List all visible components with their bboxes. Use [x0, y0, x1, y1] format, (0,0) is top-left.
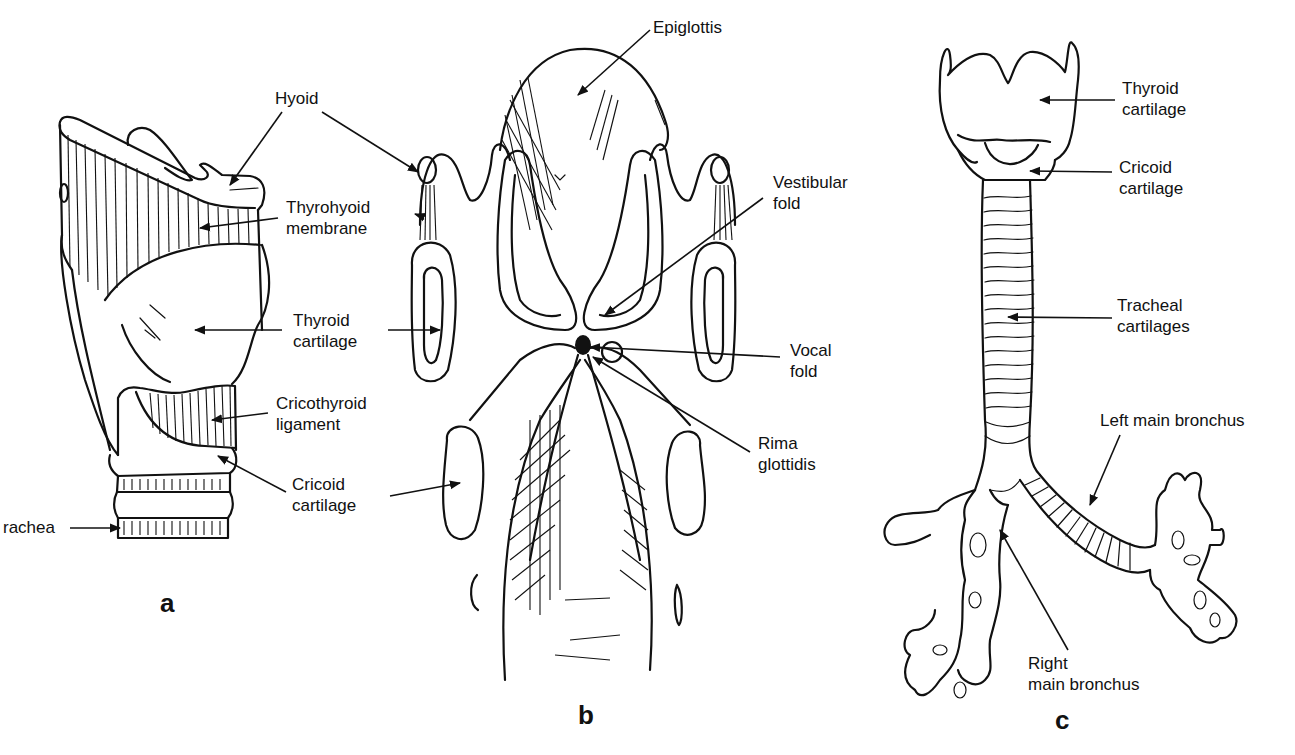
label-line: Cricoid	[292, 474, 356, 495]
label-thyrohyoid-membrane: Thyrohyoid membrane	[286, 197, 370, 239]
label-line: main bronchus	[1028, 674, 1140, 695]
label-tracheal-cartilages: Tracheal cartilages	[1117, 295, 1190, 337]
label-line: Thyroid	[1122, 78, 1186, 99]
label-line: fold	[773, 193, 848, 214]
label-left-main-bronchus: Left main bronchus	[1100, 410, 1245, 431]
label-line: glottidis	[758, 454, 816, 475]
label-line: cartilage	[292, 495, 356, 516]
label-vestibular-fold: Vestibular fold	[773, 172, 848, 214]
label-line: Thyroid	[293, 310, 357, 331]
label-vocal-fold: Vocal fold	[790, 340, 832, 382]
label-line: cartilages	[1117, 316, 1190, 337]
panel-a-drawing	[59, 112, 418, 538]
label-hyoid: Hyoid	[275, 88, 318, 109]
panel-b-drawing	[388, 30, 780, 680]
line-art	[0, 0, 1295, 755]
label-line: Cricoid	[1119, 157, 1183, 178]
label-line: Right	[1028, 653, 1140, 674]
label-line: fold	[790, 361, 832, 382]
label-epiglottis: Epiglottis	[653, 17, 722, 38]
label-line: Tracheal	[1117, 295, 1190, 316]
label-thyroid-cartilage-c: Thyroid cartilage	[1122, 78, 1186, 120]
panel-letter-c: c	[1055, 705, 1069, 736]
label-right-main-bronchus: Right main bronchus	[1028, 653, 1140, 695]
label-line: Rima	[758, 433, 816, 454]
label-line: Thyrohyoid	[286, 197, 370, 218]
label-line: cartilage	[1119, 178, 1183, 199]
panel-letter-a: a	[160, 588, 174, 619]
label-line: membrane	[286, 218, 370, 239]
larynx-anatomy-figure: Hyoid Thyrohyoid membrane Thyroid cartil…	[0, 0, 1295, 755]
label-line: Vestibular	[773, 172, 848, 193]
label-line: ligament	[276, 414, 367, 435]
label-line: cartilage	[1122, 99, 1186, 120]
label-line: cartilage	[293, 331, 357, 352]
panel-c-drawing	[885, 42, 1237, 698]
label-trachea: rachea	[3, 517, 55, 538]
panel-letter-b: b	[578, 700, 594, 731]
label-line: Cricothyroid	[276, 393, 367, 414]
label-thyroid-cartilage-a: Thyroid cartilage	[293, 310, 357, 352]
label-rima-glottidis: Rima glottidis	[758, 433, 816, 475]
label-cricoid-cartilage-a: Cricoid cartilage	[292, 474, 356, 516]
label-line: Vocal	[790, 340, 832, 361]
label-cricothyroid-ligament: Cricothyroid ligament	[276, 393, 367, 435]
label-cricoid-cartilage-c: Cricoid cartilage	[1119, 157, 1183, 199]
